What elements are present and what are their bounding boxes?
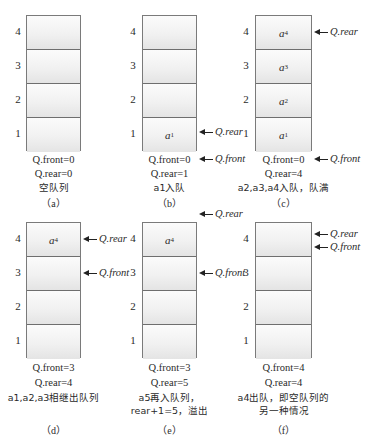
panel-description: 空队列 — [13, 181, 94, 194]
row-index-2: 2 — [13, 300, 23, 312]
row-index-2: 2 — [241, 93, 251, 105]
queue-box — [26, 15, 81, 151]
queue-box: a4 — [26, 222, 81, 358]
left-arrow-icon — [199, 128, 213, 136]
left-arrow-icon — [199, 210, 213, 218]
left-arrow-icon — [314, 243, 328, 251]
queue-box — [255, 222, 312, 358]
rear-pointer-label: Q.rear — [99, 233, 127, 245]
rear-pointer: Q.rear — [314, 228, 358, 240]
queue-cell-3: a3 — [256, 50, 311, 84]
front-value: Q.front=4 — [243, 361, 324, 374]
front-pointer-label: Q.front — [99, 267, 129, 279]
queue-cell-3 — [27, 257, 80, 291]
rear-pointer-label: Q.rear — [215, 208, 243, 220]
queue-cell-2 — [27, 291, 80, 325]
panel-description-line1: a4出队，即空队列的 — [228, 391, 339, 404]
row-index-4: 4 — [13, 25, 23, 37]
rear-pointer: Q.rear — [83, 233, 127, 245]
rear-pointer-label: Q.rear — [330, 26, 358, 38]
panel-caption: （e） — [129, 422, 210, 437]
row-index-3: 3 — [241, 266, 251, 278]
queue-cell-1 — [256, 325, 311, 359]
left-arrow-icon — [314, 230, 328, 238]
rear-pointer: Q.rear — [314, 26, 358, 38]
queue-cell-3 — [143, 50, 196, 84]
queue-cell-1: a1 — [256, 118, 311, 152]
left-arrow-icon — [314, 28, 328, 36]
queue-cell-4: a4 — [256, 16, 311, 50]
queue-cell-3 — [143, 257, 196, 291]
queue-cell-2 — [143, 84, 196, 118]
front-pointer-label: Q.front — [215, 153, 245, 165]
left-arrow-icon — [83, 269, 97, 277]
queue-cell-4 — [143, 16, 196, 50]
front-value: Q.front=0 — [13, 153, 94, 166]
panel-caption: （d） — [13, 422, 94, 437]
queue-cell-2 — [256, 291, 311, 325]
queue-cell-4: a4 — [143, 223, 196, 257]
panel-caption: （f） — [243, 422, 324, 437]
queue-box: a4 — [142, 222, 197, 358]
row-index-4: 4 — [13, 232, 23, 244]
queue-box: a4 a3 a2 a1 — [255, 15, 312, 151]
row-index-1: 1 — [241, 334, 251, 346]
row-index-1: 1 — [13, 334, 23, 346]
row-index-2: 2 — [241, 300, 251, 312]
row-index-3: 3 — [128, 59, 138, 71]
panel-caption: （c） — [243, 195, 324, 210]
row-index-3: 3 — [241, 59, 251, 71]
row-index-4: 4 — [241, 25, 251, 37]
queue-cell-2 — [143, 291, 196, 325]
queue-cell-3 — [256, 257, 311, 291]
row-index-1: 1 — [128, 334, 138, 346]
row-index-4: 4 — [128, 25, 138, 37]
front-value: Q.front=0 — [243, 153, 324, 166]
row-index-2: 2 — [128, 93, 138, 105]
queue-cell-3 — [27, 50, 80, 84]
row-index-1: 1 — [241, 127, 251, 139]
row-index-1: 1 — [128, 127, 138, 139]
queue-cell-1 — [143, 325, 196, 359]
row-index-3: 3 — [128, 266, 138, 278]
rear-pointer: Q.rear — [199, 208, 243, 220]
queue-cell-2: a2 — [256, 84, 311, 118]
panel-description: a1入队 — [129, 181, 210, 194]
row-index-3: 3 — [13, 59, 23, 71]
rear-pointer: Q.rear — [199, 126, 243, 138]
rear-pointer-label: Q.rear — [215, 126, 243, 138]
rear-value: Q.rear=1 — [129, 167, 210, 180]
front-value: Q.front=0 — [129, 153, 210, 166]
queue-cell-2 — [27, 84, 80, 118]
row-index-2: 2 — [128, 300, 138, 312]
rear-value: Q.rear=4 — [243, 167, 324, 180]
left-arrow-icon — [83, 235, 97, 243]
panel-description-line2: 另一种情况 — [228, 404, 339, 417]
queue-cell-4 — [27, 16, 80, 50]
panel-description-line1: a5再入队列， — [119, 391, 220, 404]
panel-description-line2: rear+1=5，溢出 — [119, 404, 220, 417]
front-pointer: Q.front — [83, 267, 129, 279]
front-pointer: Q.front — [314, 241, 360, 253]
panel-description: a1,a2,a3相继出队列 — [0, 391, 107, 404]
left-arrow-icon — [199, 269, 213, 277]
row-index-4: 4 — [241, 232, 251, 244]
rear-value: Q.rear=4 — [243, 376, 324, 389]
row-index-4: 4 — [128, 232, 138, 244]
front-pointer-label: Q.front — [330, 241, 360, 253]
front-value: Q.front=3 — [129, 361, 210, 374]
queue-cell-1 — [27, 325, 80, 359]
front-value: Q.front=3 — [13, 361, 94, 374]
row-index-2: 2 — [13, 93, 23, 105]
panel-description: a2,a3,a4入队，队满 — [228, 181, 339, 194]
rear-pointer-label: Q.rear — [330, 228, 358, 240]
panel-caption: （a） — [13, 195, 94, 210]
queue-cell-1: a1 — [143, 118, 196, 152]
rear-value: Q.rear=5 — [129, 376, 210, 389]
queue-box: a1 — [142, 15, 197, 151]
queue-cell-4: a4 — [27, 223, 80, 257]
rear-value: Q.rear=0 — [13, 167, 94, 180]
queue-cell-1 — [27, 118, 80, 152]
rear-value: Q.rear=4 — [13, 376, 94, 389]
queue-cell-4 — [256, 223, 311, 257]
